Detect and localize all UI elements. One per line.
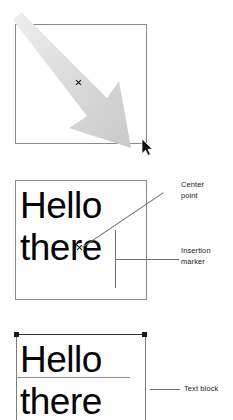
callout-insertion-marker: Insertion marker	[181, 246, 211, 267]
drag-arrow-icon	[15, 24, 147, 144]
text-line-there: there	[20, 228, 102, 268]
text-block-line-hello: Hello	[20, 340, 102, 380]
text-block-line-there: there	[20, 382, 102, 420]
handle-top-left[interactable]	[14, 332, 19, 337]
handle-top-right[interactable]	[142, 332, 147, 337]
leader-line-text-block	[150, 389, 180, 390]
callout-center-point: Center point	[181, 180, 204, 201]
text-line-hello: Hello	[20, 186, 102, 226]
mouse-cursor-icon	[141, 138, 154, 156]
callout-text-block: Text block	[184, 384, 218, 395]
leader-line-insertion-marker	[116, 259, 179, 260]
